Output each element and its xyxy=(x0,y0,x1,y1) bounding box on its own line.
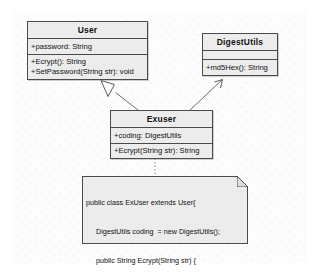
class-box-user[interactable]: User +password: String +Ecrypt(): String… xyxy=(27,21,148,80)
code-line: public String Ecrypt(String str) { xyxy=(86,256,245,266)
hollow-triangle-arrowhead xyxy=(101,81,115,97)
method-item: +Ecrypt(): String xyxy=(31,57,144,67)
class-name-user: User xyxy=(28,22,147,39)
uml-class-diagram: User +password: String +Ecrypt(): String… xyxy=(0,0,322,274)
attribute-item: +coding: DigestUtils xyxy=(114,131,209,141)
class-box-exuser[interactable]: Exuser +coding: DigestUtils +Ecrypt(Stri… xyxy=(110,110,213,159)
note-code-text: public class ExUser extends User{ Digest… xyxy=(86,179,245,274)
class-name-digestutils: DigestUtils xyxy=(203,34,277,51)
class-methods-exuser: +Ecrypt(String str): String xyxy=(111,144,212,159)
class-attributes-user: +password: String xyxy=(28,39,147,55)
method-item: +SetPassword(String str): void xyxy=(31,67,144,77)
code-line: DigestUtils coding = new DigestUtils(); xyxy=(86,227,245,237)
method-item: +md5Hex(): String xyxy=(206,63,274,73)
class-box-digestutils[interactable]: DigestUtils +md5Hex(): String xyxy=(202,33,278,76)
class-attributes-digestutils xyxy=(203,51,277,60)
generalization-edge-exuser-to-user xyxy=(101,81,138,111)
code-line: public class ExUser extends User{ xyxy=(86,198,245,208)
class-methods-digestutils: +md5Hex(): String xyxy=(203,60,277,75)
attribute-item: +password: String xyxy=(31,42,144,52)
code-note[interactable]: public class ExUser extends User{ Digest… xyxy=(82,176,248,244)
method-item: +Ecrypt(String str): String xyxy=(114,146,209,156)
association-edge-exuser-to-digestutils xyxy=(190,80,223,111)
class-methods-user: +Ecrypt(): String +SetPassword(String st… xyxy=(28,55,147,79)
class-attributes-exuser: +coding: DigestUtils xyxy=(111,128,212,144)
class-name-exuser: Exuser xyxy=(111,111,212,128)
